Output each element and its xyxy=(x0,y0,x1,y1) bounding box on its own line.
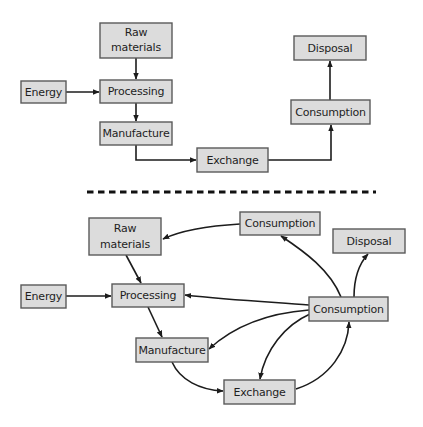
node-raw-materials: Raw materials xyxy=(89,218,161,255)
node-label: Exchange xyxy=(206,154,259,167)
node-processing: Processing xyxy=(100,80,172,103)
node-consumption: Consumption xyxy=(291,100,370,124)
edge-hub-to-exchange xyxy=(260,314,310,379)
node-exchange: Exchange xyxy=(197,148,268,172)
edge-processing-to-manufacture xyxy=(148,307,162,337)
edge-exchange-to-consumption xyxy=(268,125,331,160)
node-manufacture: Manufacture xyxy=(100,122,172,145)
material-flow-diagram: Raw materials Energy Processing Manufact… xyxy=(0,0,423,427)
edge-hub-to-processing xyxy=(185,295,309,305)
node-processing: Processing xyxy=(112,284,184,307)
edge-hub-to-disposal xyxy=(354,254,368,297)
node-energy: Energy xyxy=(21,81,66,103)
circular-flow: Raw materials Consumption Disposal Energ… xyxy=(21,212,405,404)
node-disposal: Disposal xyxy=(333,229,405,253)
edge-raw-to-processing xyxy=(126,255,141,283)
node-label: Exchange xyxy=(233,386,286,399)
node-raw-materials: Raw materials xyxy=(100,23,172,58)
node-label: materials xyxy=(111,41,161,54)
node-consumption-top: Consumption xyxy=(240,212,320,235)
node-exchange: Exchange xyxy=(224,380,295,404)
node-label: Manufacture xyxy=(139,344,206,357)
linear-flow: Raw materials Energy Processing Manufact… xyxy=(21,23,370,172)
edge-exchange-to-consumption-hub xyxy=(296,322,349,389)
edge-manufacture-to-exchange xyxy=(136,145,196,160)
node-label: materials xyxy=(100,238,150,251)
node-label: Consumption xyxy=(245,217,316,230)
edge-hub-to-manufacture xyxy=(209,310,309,349)
node-disposal: Disposal xyxy=(294,36,366,60)
node-manufacture: Manufacture xyxy=(136,338,208,362)
edge-hub-to-consumption-top xyxy=(281,236,341,297)
node-label: Disposal xyxy=(347,235,392,248)
node-label: Raw xyxy=(125,26,148,39)
node-energy: Energy xyxy=(21,285,66,308)
node-label: Manufacture xyxy=(103,127,170,140)
node-label: Energy xyxy=(25,86,63,99)
node-label: Consumption xyxy=(295,106,366,119)
node-label: Consumption xyxy=(313,303,384,316)
node-consumption-hub: Consumption xyxy=(309,297,388,321)
edge-consumption-top-to-raw xyxy=(163,224,240,239)
node-label: Processing xyxy=(108,85,165,98)
node-label: Energy xyxy=(25,290,63,303)
edge-manufacture-to-exchange xyxy=(172,362,223,391)
node-label: Raw xyxy=(114,222,137,235)
node-label: Disposal xyxy=(308,42,353,55)
node-label: Processing xyxy=(120,289,177,302)
